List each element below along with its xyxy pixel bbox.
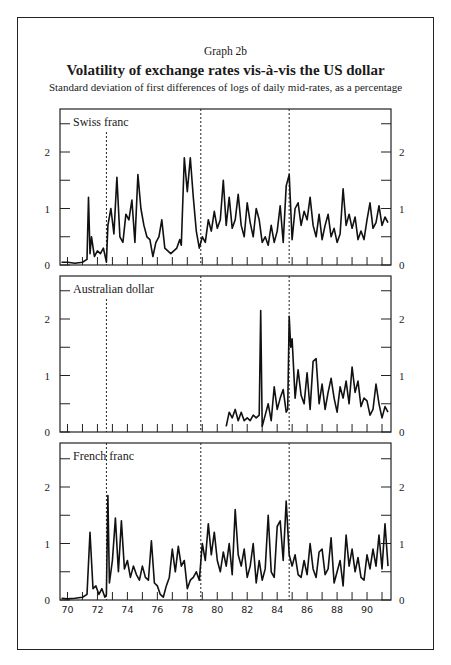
y-tick-label-left: 1 [45, 538, 51, 550]
y-tick-label-left: 1 [45, 370, 51, 382]
x-tick-label: 72 [91, 604, 103, 615]
x-tick-label: 74 [121, 604, 133, 615]
series-line-swiss-franc [62, 158, 389, 264]
panel-border [60, 109, 391, 265]
y-tick-label-right: 0 [399, 259, 405, 271]
y-tick-label-right: 1 [399, 370, 405, 382]
chart-plot-area: 001122Swiss franc001122Australian dollar… [0, 0, 451, 665]
panel-label: French franc [73, 449, 134, 463]
panel-border [60, 276, 391, 432]
y-tick-label-left: 0 [45, 426, 51, 438]
x-tick-label: 88 [331, 604, 343, 615]
y-tick-label-left: 2 [45, 313, 51, 325]
x-tick-label: 82 [241, 604, 253, 615]
y-tick-label-left: 0 [45, 594, 51, 606]
y-tick-label-right: 1 [399, 538, 405, 550]
y-tick-label-left: 2 [45, 146, 51, 158]
y-tick-label-left: 2 [45, 481, 51, 493]
x-tick-label: 84 [271, 604, 283, 615]
y-tick-label-right: 2 [399, 146, 405, 158]
panel-label: Australian dollar [73, 282, 154, 296]
y-tick-label-left: 0 [45, 259, 51, 271]
series-line-australian-dollar [226, 311, 388, 427]
x-tick-label: 70 [61, 604, 73, 615]
x-tick-label: 86 [301, 604, 313, 615]
x-tick-label: 90 [361, 604, 373, 615]
x-tick-label: 80 [211, 604, 223, 615]
y-tick-label-right: 2 [399, 481, 405, 493]
y-tick-label-left: 1 [45, 203, 51, 215]
x-tick-label: 76 [151, 604, 163, 615]
x-tick-label: 78 [181, 604, 193, 615]
y-tick-label-right: 1 [399, 203, 405, 215]
y-tick-label-right: 0 [399, 594, 405, 606]
panel-label: Swiss franc [73, 115, 129, 129]
y-tick-label-right: 0 [399, 426, 405, 438]
y-tick-label-right: 2 [399, 313, 405, 325]
series-line-french-franc [62, 496, 389, 599]
